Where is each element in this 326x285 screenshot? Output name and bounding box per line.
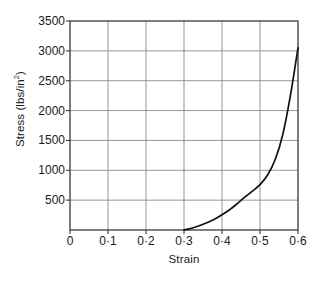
stress-strain-chart: Stress (lbs/in2) 50010001500200025003000… xyxy=(0,0,326,285)
x-axis-tick-labels: 00·10·20·30·40·50·6 xyxy=(0,0,326,285)
x-tick-label: 0·2 xyxy=(126,234,166,248)
x-tick-label: 0·4 xyxy=(202,234,242,248)
x-axis-title: Strain xyxy=(70,253,298,265)
x-tick-label: 0·6 xyxy=(278,234,318,248)
x-tick-label: 0·3 xyxy=(164,234,204,248)
x-tick-label: 0·5 xyxy=(240,234,280,248)
x-tick-label: 0 xyxy=(50,234,90,248)
x-tick-label: 0·1 xyxy=(88,234,128,248)
